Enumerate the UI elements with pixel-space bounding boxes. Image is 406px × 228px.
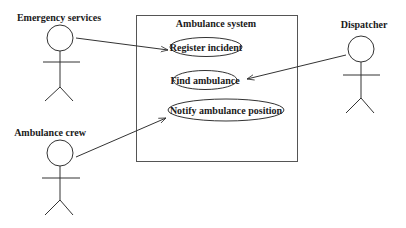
stick-figure-icon: [43, 25, 80, 101]
actor-label: Emergency services: [17, 12, 101, 23]
actor-label: Ambulance crew: [14, 127, 87, 138]
use-case-label: Register incident: [170, 42, 243, 53]
actor-label: Dispatcher: [341, 19, 388, 30]
system-title: Ambulance system: [176, 18, 257, 29]
stick-figure-icon: [343, 36, 380, 113]
actor-emergency-services[interactable]: Emergency services: [17, 12, 101, 101]
use-case-diagram: Ambulance system Register incident Find …: [0, 0, 406, 228]
use-case-label: Notify ambulance position: [170, 105, 283, 116]
use-case-label: Find ambulance: [170, 75, 240, 86]
stick-figure-icon: [42, 140, 80, 215]
use-case-notify-ambulance-position[interactable]: Notify ambulance position: [168, 99, 284, 121]
actor-dispatcher[interactable]: Dispatcher: [341, 19, 388, 113]
actor-ambulance-crew[interactable]: Ambulance crew: [14, 127, 87, 215]
use-case-register-incident[interactable]: Register incident: [170, 38, 243, 57]
